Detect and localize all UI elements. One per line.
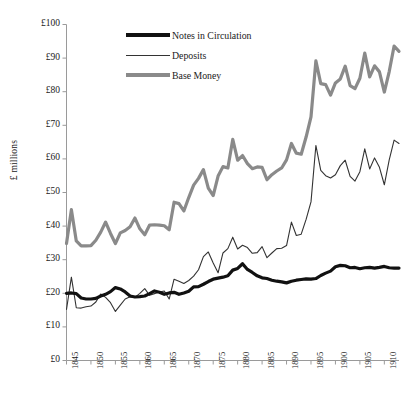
x-axis-tick-label: 1850 (95, 351, 105, 368)
x-axis-tick-label: 1880 (241, 351, 251, 368)
x-axis-tick-label: 1865 (168, 351, 178, 368)
x-axis-tick-label: 1895 (315, 351, 325, 368)
y-axis-tick-label: £70 (10, 119, 60, 129)
legend-item-notes-in-circulation[interactable]: Notes in Circulation (126, 25, 251, 45)
y-axis-tick-label: £20 (10, 287, 60, 297)
legend-swatch-base-money (126, 70, 170, 80)
y-axis-tick-label: £0 (10, 354, 60, 364)
x-axis-tick-label: 1900 (339, 351, 349, 368)
legend-item-base-money[interactable]: Base Money (126, 65, 251, 85)
y-axis-tick-label: £60 (10, 152, 60, 162)
chart-container: £ millions £100£90£80£70£60£50£40£30£20£… (0, 0, 411, 416)
x-axis-tick-label: 1875 (217, 351, 227, 368)
x-axis-tick-label: 1910 (388, 351, 398, 368)
y-axis-tick-label: £90 (10, 52, 60, 62)
x-axis-tick-label: 1855 (119, 351, 129, 368)
legend-item-deposits[interactable]: Deposits (126, 45, 251, 65)
x-axis-tick-label: 1905 (363, 351, 373, 368)
series-line-deposits (67, 140, 400, 311)
legend-label-notes-in-circulation: Notes in Circulation (170, 30, 251, 41)
legend-label-deposits: Deposits (170, 50, 206, 61)
x-axis-tick-label: 1890 (290, 351, 300, 368)
x-axis-tick-label: 1870 (192, 351, 202, 368)
y-axis-tick-label: £50 (10, 186, 60, 196)
series-line-notes-in-circulation (67, 264, 400, 299)
y-axis-tick-label: £30 (10, 253, 60, 263)
legend-swatch-notes-in-circulation (126, 30, 170, 40)
chart-legend: Notes in Circulation Deposits Base Money (126, 25, 251, 85)
x-axis-tick-label: 1860 (143, 351, 153, 368)
legend-label-base-money: Base Money (170, 70, 221, 81)
legend-swatch-deposits (126, 50, 170, 60)
chart-series-layer (67, 46, 400, 311)
y-axis-tick-label: £10 (10, 320, 60, 330)
x-axis-tick-label: 1885 (266, 351, 276, 368)
x-axis-tick-label: 1845 (70, 351, 80, 368)
y-axis-tick-label: £40 (10, 220, 60, 230)
y-axis-tick-label: £100 (10, 18, 60, 28)
y-axis-tick-label: £80 (10, 85, 60, 95)
